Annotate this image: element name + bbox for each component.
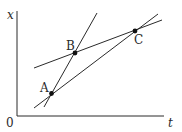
- point-B-label: B: [66, 39, 75, 53]
- origin-label: 0: [6, 116, 14, 130]
- diagram-canvas: x t 0 A B C: [0, 0, 182, 132]
- x-axis-label: t: [168, 116, 173, 130]
- point-A-label: A: [39, 81, 49, 95]
- point-C-label: C: [134, 33, 143, 47]
- point-A: [49, 91, 54, 96]
- y-axis-label: x: [7, 8, 14, 22]
